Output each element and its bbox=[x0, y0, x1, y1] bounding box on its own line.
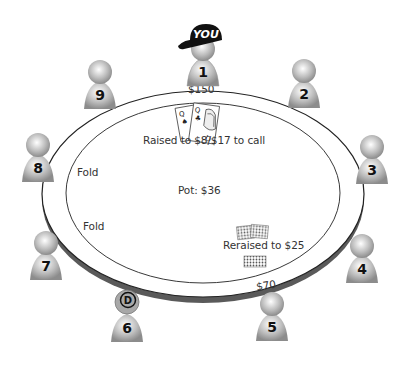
seat-7[interactable]: 7 bbox=[24, 226, 68, 282]
poker-table-diagram: Q ♠ Q ♣ Q $150 Raised to $8/$17 to call … bbox=[0, 0, 407, 365]
seat-3[interactable]: 3 bbox=[350, 130, 394, 186]
seat-number: 2 bbox=[282, 86, 326, 102]
seat-number: 5 bbox=[250, 319, 294, 335]
seat-1-action: Raised to $8/$17 to call bbox=[143, 134, 265, 146]
seat-5-action: Reraised to $25 bbox=[223, 239, 304, 251]
seat-number: 1 bbox=[181, 64, 225, 80]
you-label: YOU bbox=[193, 28, 219, 41]
baseball-cap-icon: YOU bbox=[176, 22, 232, 52]
svg-text:♣: ♣ bbox=[194, 114, 201, 123]
seat-7-action: Fold bbox=[83, 220, 104, 232]
dealer-label: D bbox=[124, 295, 132, 306]
seat-8[interactable]: 8 bbox=[16, 128, 60, 184]
seat-2[interactable]: 2 bbox=[282, 54, 326, 110]
seat-4[interactable]: 4 bbox=[340, 229, 384, 285]
seat-number: 3 bbox=[350, 162, 394, 178]
dealer-button-icon: D bbox=[119, 291, 137, 309]
seat-9[interactable]: 9 bbox=[78, 55, 122, 111]
seat-8-action: Fold bbox=[77, 166, 98, 178]
pot-label: Pot: $36 bbox=[178, 184, 221, 196]
seat-number: 4 bbox=[340, 261, 384, 277]
seat-5[interactable]: 5 bbox=[250, 287, 294, 343]
seat-number: 8 bbox=[16, 160, 60, 176]
seat-number: 6 bbox=[105, 320, 149, 336]
seat-number: 9 bbox=[78, 87, 122, 103]
seat-number: 7 bbox=[24, 258, 68, 274]
